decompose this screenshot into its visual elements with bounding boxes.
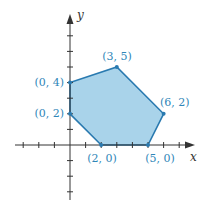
label-2-0: (2, 0) [87,152,117,165]
x-axis-label: x [190,150,197,164]
y-axis-label: y [76,8,84,22]
label-0-2: (0, 2) [34,107,64,120]
label-0-4: (0, 4) [34,76,64,89]
x-axis-arrow-icon [185,142,195,149]
label-5-0: (5, 0) [145,152,175,165]
feasible-region [70,67,164,145]
label-3-5: (3, 5) [102,50,132,63]
chart: (0, 4) (0, 2) (3, 5) (6, 2) (2, 0) (5, 0… [0,0,210,214]
y-axis-arrow-icon [67,14,74,24]
label-6-2: (6, 2) [160,96,190,109]
